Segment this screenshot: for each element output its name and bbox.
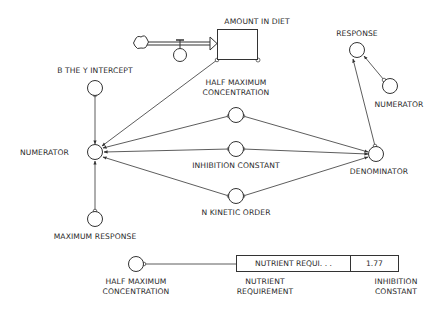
connector-denominator-to-response[interactable] <box>353 59 375 146</box>
converter-inhibition-constant[interactable] <box>228 141 244 157</box>
converter-label: HALF MAXIMUMCONCENTRATION <box>203 78 270 98</box>
converter-numerator[interactable] <box>87 144 103 160</box>
converter-n-kinetic-order[interactable] <box>228 188 244 204</box>
connector-half_max_conc-to-denominator[interactable] <box>243 116 368 152</box>
converter-label: DENOMINATOR <box>350 167 408 177</box>
converter-label: INHIBITION CONSTANT <box>192 161 280 171</box>
converter-numerator-2[interactable] <box>382 78 398 94</box>
cloud-icon <box>134 36 149 49</box>
connector-inhibition_constant-to-denominator[interactable] <box>243 149 368 154</box>
converter-label: INHIBITIONCONSTANT <box>375 277 418 297</box>
converter-denominator[interactable] <box>368 146 384 162</box>
converter-label: MAXIMUM RESPONSE <box>54 232 137 242</box>
converter-max-response[interactable] <box>87 211 103 227</box>
converter-label: B THE Y INTERCEPT <box>57 66 133 76</box>
table-variable-value: 1.77 <box>351 256 398 271</box>
connector-inhibition_constant-to-numerator[interactable] <box>104 149 229 152</box>
converter-label: NUTRIENTREQUIREMENT <box>237 277 294 297</box>
table-variable-name: NUTRIENT REQUI. . . <box>237 256 351 271</box>
stock-label: AMOUNT IN DIET <box>224 17 289 27</box>
stock-amount-in-diet[interactable] <box>217 29 258 60</box>
converter-label: HALF MAXIMUMCONCENTRATION <box>103 277 170 297</box>
flow-valve[interactable] <box>173 48 187 62</box>
connector-half_max_conc-to-numerator[interactable] <box>103 116 229 148</box>
connector-numerator_2-to-response[interactable] <box>364 56 384 80</box>
converter-response[interactable] <box>349 42 365 58</box>
converter-label: N KINETIC ORDER <box>201 208 270 218</box>
converter-label: NUMERATOR <box>375 100 424 110</box>
converter-label: RESPONSE <box>336 29 378 39</box>
converter-b-y-intercept[interactable] <box>87 80 103 96</box>
converter-label: NUMERATOR <box>20 148 69 158</box>
converter-half-max-conc-2[interactable] <box>128 256 144 272</box>
converter-half-max-conc[interactable] <box>228 107 244 123</box>
value-table: NUTRIENT REQUI. . . 1.77 <box>236 255 399 272</box>
